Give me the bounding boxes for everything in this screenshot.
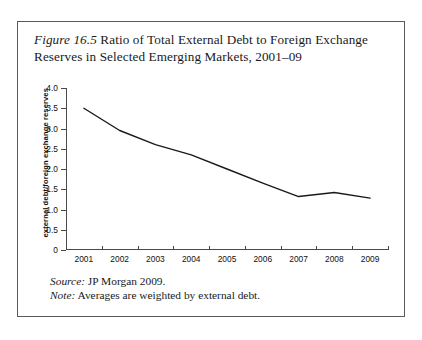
x-tick-label: 2008 bbox=[314, 254, 354, 264]
y-tick-label: 3.5 bbox=[46, 103, 58, 113]
source-value: JP Morgan 2009. bbox=[85, 275, 165, 287]
source-line: Source: JP Morgan 2009. bbox=[50, 274, 260, 288]
figure-footnotes: Source: JP Morgan 2009. Note: Averages a… bbox=[50, 274, 260, 302]
figure-panel: Figure 16.5 Ratio of Total External Debt… bbox=[17, 21, 405, 317]
note-line: Note: Averages are weighted by external … bbox=[50, 288, 260, 302]
x-axis-ticks: 200120022003200420052006200720082009 bbox=[66, 250, 388, 264]
note-label: Note: bbox=[50, 289, 75, 301]
x-tick-label: 2009 bbox=[350, 254, 390, 264]
figure-number: Figure 16.5 bbox=[34, 32, 97, 47]
y-tick-label: 0 bbox=[53, 245, 58, 255]
x-tick-label: 2006 bbox=[243, 254, 283, 264]
x-tick-label: 2005 bbox=[207, 254, 247, 264]
chart-canvas: 4.03.53.02.52.01.51.00.50 20012002200320… bbox=[66, 88, 388, 250]
y-tick-label: 3.0 bbox=[46, 124, 58, 134]
y-tick-label: 2.0 bbox=[46, 164, 58, 174]
note-value: Averages are weighted by external debt. bbox=[75, 289, 260, 301]
x-tick-label: 2002 bbox=[100, 254, 140, 264]
x-tick-label: 2003 bbox=[135, 254, 175, 264]
x-tick-label: 2004 bbox=[171, 254, 211, 264]
y-tick-label: 1.0 bbox=[46, 205, 58, 215]
y-tick-label: 4.0 bbox=[46, 83, 58, 93]
debt-ratio-line-series bbox=[66, 88, 388, 250]
y-tick-label: 0.5 bbox=[46, 225, 58, 235]
chart-plot-area: external debt/foreign exchange reserves … bbox=[18, 80, 404, 280]
figure-caption: Figure 16.5 Ratio of Total External Debt… bbox=[34, 32, 382, 65]
x-tick-label: 2007 bbox=[279, 254, 319, 264]
y-tick-label: 2.5 bbox=[46, 144, 58, 154]
source-label: Source: bbox=[50, 275, 85, 287]
y-tick-label: 1.5 bbox=[46, 184, 58, 194]
x-tick bbox=[388, 246, 389, 250]
x-tick-label: 2001 bbox=[64, 254, 104, 264]
